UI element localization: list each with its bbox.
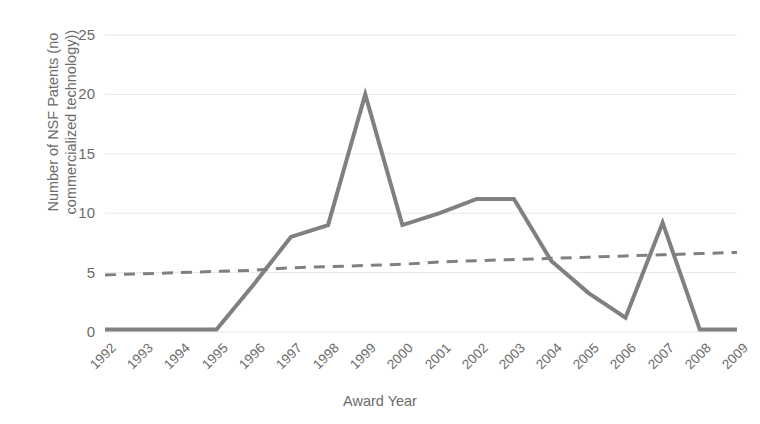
- x-axis-title: Award Year: [0, 393, 760, 409]
- y-axis-title-wrapper: Number of NSF Patents (no commercialized…: [12, 40, 68, 340]
- gridlines: [105, 35, 737, 332]
- data-line-path: [105, 94, 737, 329]
- y-axis-title: Number of NSF Patents (no commercialized…: [44, 0, 80, 252]
- chart-container: 0510152025 19921993199419951996199719981…: [0, 0, 760, 424]
- data-series-line: [105, 94, 737, 329]
